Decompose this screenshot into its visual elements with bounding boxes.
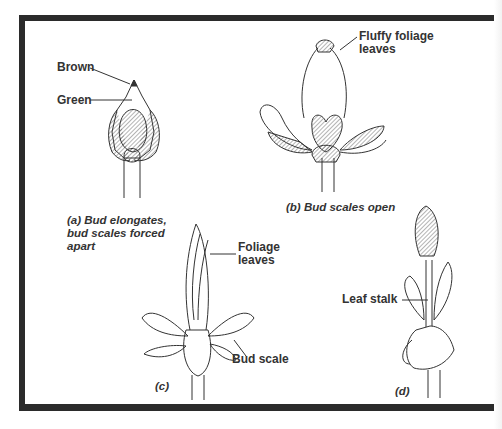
caption-a-line2: bud scales forced <box>67 227 165 240</box>
caption-c: (c) <box>155 380 169 393</box>
bud-a-drawing <box>109 80 160 198</box>
bud-d-drawing <box>403 206 454 398</box>
caption-a-line1: (a) Bud elongates, <box>67 214 167 227</box>
label-leaf-stalk: Leaf stalk <box>342 293 397 306</box>
label-bud-scale: Bud scale <box>232 353 289 366</box>
caption-b: (b) Bud scales open <box>286 201 395 214</box>
label-brown: Brown <box>57 61 94 74</box>
label-leaves-c: leaves <box>238 254 275 267</box>
label-leaves-b: leaves <box>359 43 396 56</box>
bud-b-drawing <box>260 40 386 192</box>
caption-a-line3: apart <box>67 240 95 253</box>
label-green: Green <box>57 94 92 107</box>
caption-d: (d) <box>395 385 410 398</box>
